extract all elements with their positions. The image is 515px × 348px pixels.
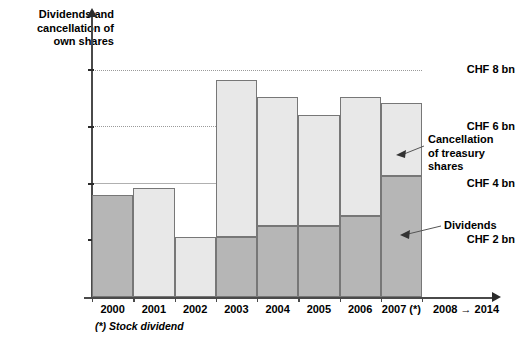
y-tick-label: CHF 2 bn: [433, 233, 515, 245]
y-tick-label: CHF 6 bn: [433, 120, 515, 132]
bar-2007[interactable]: [381, 103, 422, 297]
y-tick-label: CHF 4 bn: [433, 177, 515, 189]
bar-2000[interactable]: [92, 195, 133, 297]
plot-area: [92, 16, 422, 297]
x-label-2004: 2004: [257, 303, 298, 315]
x-tick-mark: [133, 297, 134, 302]
bar-segment-dividends[interactable]: [257, 226, 298, 297]
x-label-2006: 2006: [340, 303, 381, 315]
bar-2003[interactable]: [216, 80, 257, 297]
x-tick-mark: [381, 297, 382, 302]
bar-segment-cancellation[interactable]: [257, 97, 298, 226]
x-tick-mark: [340, 297, 341, 302]
x-axis-future-range-label: 2008 → 2014: [424, 303, 508, 315]
x-label-2000: 2000: [92, 303, 133, 315]
x-label-2002: 2002: [175, 303, 216, 315]
x-tick-mark: [422, 297, 423, 302]
bar-2006[interactable]: [340, 97, 381, 297]
bar-segment-dividends[interactable]: [381, 176, 422, 297]
x-tick-mark: [216, 297, 217, 302]
bar-segment-dividends[interactable]: [298, 226, 339, 297]
chart-container: Dividends and cancellation of own shares…: [0, 0, 515, 348]
x-axis-line: [84, 297, 494, 299]
x-tick-mark: [257, 297, 258, 302]
x-label-2001: 2001: [133, 303, 174, 315]
bar-segment-cancellation[interactable]: [216, 80, 257, 237]
annotation-dividends: Dividends: [444, 219, 514, 233]
annotation-cancellation-of-treasury-shares: Cancellation of treasury shares: [428, 133, 512, 174]
bar-2001[interactable]: [133, 188, 174, 297]
bar-segment-dividends[interactable]: [216, 237, 257, 297]
x-tick-mark: [298, 297, 299, 302]
x-tick-mark: [175, 297, 176, 302]
chart-footnote: (*) Stock dividend: [95, 320, 184, 332]
x-label-2003: 2003: [216, 303, 257, 315]
x-label-2005: 2005: [298, 303, 339, 315]
bar-2005[interactable]: [298, 115, 339, 297]
bar-segment-cancellation[interactable]: [133, 188, 174, 297]
bar-segment-cancellation[interactable]: [298, 115, 339, 226]
bar-segment-cancellation[interactable]: [381, 103, 422, 177]
bar-segment-cancellation[interactable]: [175, 237, 216, 297]
x-tick-mark: [92, 297, 93, 302]
x-axis-arrow-icon: [492, 292, 501, 302]
bar-2004[interactable]: [257, 97, 298, 297]
bar-segment-dividends[interactable]: [92, 195, 133, 297]
bar-segment-cancellation[interactable]: [340, 97, 381, 216]
y-tick-label: CHF 8 bn: [433, 63, 515, 75]
bar-segment-dividends[interactable]: [340, 216, 381, 297]
x-label-2007: 2007 (*): [381, 303, 422, 315]
bar-2002[interactable]: [175, 237, 216, 297]
